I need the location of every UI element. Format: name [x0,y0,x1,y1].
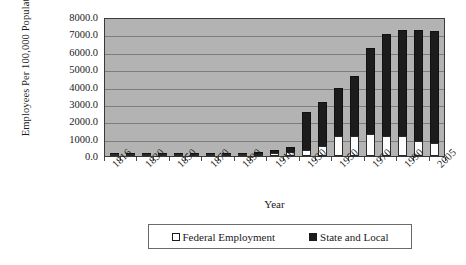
bar-column[interactable] [126,19,135,156]
bar-column[interactable] [158,19,167,156]
bar-segment-state-and-local[interactable] [430,31,439,143]
bar-segment-federal-employment[interactable] [366,134,375,156]
bar-column[interactable] [302,19,311,156]
bar-column[interactable] [430,19,439,156]
bar-segment-state-and-local[interactable] [318,102,327,146]
bar-segment-federal-employment[interactable] [302,150,311,156]
bar-segment-state-and-local[interactable] [382,34,391,136]
bar-column[interactable] [414,19,423,156]
bar-column[interactable] [366,19,375,156]
legend-label-federal-employment: Federal Employment [183,231,276,243]
y-axis-tick-label: 8000.0 [69,13,98,23]
y-axis-tick-label: 0.0 [85,152,98,162]
x-axis-title: Year [104,198,445,210]
y-axis-tick-labels: 8000.07000.06000.05000.04000.03000.02000… [58,12,102,158]
bar-column[interactable] [142,19,151,156]
y-axis-tick-label: 4000.0 [69,83,98,93]
bar-segment-state-and-local[interactable] [350,76,359,135]
bar-segment-federal-employment[interactable] [430,143,439,156]
bar-column[interactable] [286,19,295,156]
bar-column[interactable] [334,19,343,156]
bar-column[interactable] [206,19,215,156]
y-axis-tick-label: 7000.0 [69,30,98,40]
bar-column[interactable] [254,19,263,156]
bar-column[interactable] [270,19,279,156]
open-square-icon [172,233,180,241]
filled-square-icon [309,233,317,241]
bar-column[interactable] [238,19,247,156]
bar-column[interactable] [382,19,391,156]
y-axis-tick-label: 5000.0 [69,65,98,75]
bar-column[interactable] [110,19,119,156]
y-axis-tick-label: 6000.0 [69,48,98,58]
plot-area [104,18,445,157]
bar-chart: Employees Per 100,000 Population 8000.07… [0,0,466,265]
x-axis-tick-labels: 1816183018501870189019101930195019701990… [104,160,445,198]
bar-series-container [105,19,444,156]
y-axis-tick-label: 2000.0 [69,117,98,127]
bar-column[interactable] [318,19,327,156]
bar-segment-state-and-local[interactable] [414,30,423,141]
bar-column[interactable] [174,19,183,156]
bar-segment-state-and-local[interactable] [366,48,375,134]
bar-column[interactable] [350,19,359,156]
y-axis-tick-label: 1000.0 [69,135,98,145]
y-axis-title: Employees Per 100,000 Population [20,0,31,141]
bar-segment-state-and-local[interactable] [334,88,343,136]
bar-segment-state-and-local[interactable] [398,30,407,136]
bar-segment-federal-employment[interactable] [398,136,407,156]
bar-column[interactable] [222,19,231,156]
legend-label-state-and-local: State and Local [320,231,388,243]
bar-column[interactable] [398,19,407,156]
bar-segment-state-and-local[interactable] [302,112,311,151]
chart-legend: Federal Employment State and Local [148,224,412,249]
legend-item-federal-employment: Federal Employment [172,231,276,243]
bar-column[interactable] [190,19,199,156]
legend-item-state-and-local: State and Local [309,231,388,243]
bar-segment-federal-employment[interactable] [334,136,343,156]
y-axis-tick-label: 3000.0 [69,100,98,110]
